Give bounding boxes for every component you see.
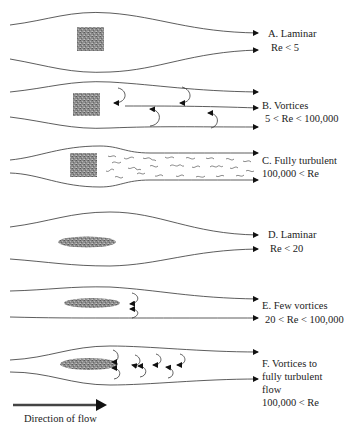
- panel-c-turbulent: [10, 146, 258, 187]
- panel-d-laminar: [10, 212, 258, 266]
- panel-e-few-vortices: [10, 287, 258, 318]
- panel-b-vortices: [10, 82, 258, 129]
- ellipse-body: [60, 358, 118, 370]
- streamline-middle: [125, 106, 258, 108]
- panel-f-condition: 100,000 < Re: [262, 397, 319, 409]
- streamline-bottom: [10, 249, 258, 266]
- panel-e-condition: 20 < Re < 100,000: [265, 314, 344, 326]
- vortex: [153, 354, 161, 365]
- panel-c-title: C. Fully turbulent: [262, 155, 337, 167]
- square-body: [73, 93, 100, 116]
- flow-direction-legend: [13, 399, 107, 411]
- streamline-top: [10, 346, 258, 360]
- panel-a-title: A. Laminar: [268, 28, 316, 40]
- streamline-top: [10, 82, 258, 92]
- streamline-bottom: [10, 372, 258, 385]
- vortex: [150, 109, 159, 126]
- panel-f-vortices-turbulent: [10, 346, 258, 385]
- streamline-top: [10, 287, 258, 299]
- streamline-top: [10, 12, 258, 33]
- panel-b-title: B. Vortices: [262, 100, 308, 112]
- streamline-top: [10, 212, 258, 235]
- panel-f-title-line-3: flow: [262, 384, 281, 396]
- panel-a-laminar: [10, 12, 258, 72]
- vortex: [114, 88, 125, 103]
- vortex: [112, 368, 120, 379]
- panel-a-condition: Re < 5: [271, 42, 299, 54]
- streamline-bottom: [10, 50, 258, 72]
- ellipse-body: [64, 298, 120, 308]
- square-body: [70, 153, 97, 177]
- flow-direction-label: Direction of flow: [24, 413, 97, 425]
- vortex: [180, 87, 190, 103]
- panel-d-condition: Re < 20: [270, 243, 303, 255]
- vortex: [130, 309, 138, 318]
- panel-c-condition: 100,000 < Re: [262, 168, 319, 180]
- panel-d-title: D. Laminar: [268, 229, 316, 241]
- vortex: [132, 355, 140, 365]
- vortex: [166, 367, 173, 378]
- vortex: [208, 113, 217, 128]
- ellipse-body: [58, 237, 116, 248]
- vortex: [177, 354, 185, 365]
- square-body: [77, 27, 104, 51]
- panel-f-title-line-2: fully turbulent: [262, 371, 322, 383]
- vortex: [138, 366, 146, 377]
- panel-f-title-line-1: F. Vortices to: [262, 358, 317, 370]
- panel-e-title: E. Few vortices: [262, 300, 328, 312]
- panel-b-condition: 5 < Re < 100,000: [265, 113, 338, 125]
- vortex: [112, 350, 118, 362]
- vortex: [130, 293, 138, 304]
- streamline-bottom: [10, 173, 258, 187]
- turbulence-squiggles: [106, 156, 254, 178]
- streamline-bottom: [10, 117, 258, 128]
